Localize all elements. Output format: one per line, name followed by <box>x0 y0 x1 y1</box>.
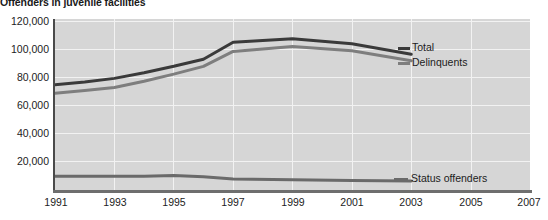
chart-figure: Offenders in juvenile facilities <box>0 0 548 220</box>
y-tick-label: 40,000 <box>0 127 49 139</box>
legend-swatch-status-offenders <box>394 178 408 181</box>
x-tick-label: 2003 <box>399 196 422 208</box>
legend-swatch-delinquents <box>398 62 410 65</box>
x-tick-label: 2007 <box>517 196 540 208</box>
x-tick-label: 2001 <box>340 196 363 208</box>
x-tick-label: 2005 <box>459 196 482 208</box>
legend-label-total: Total <box>412 41 434 53</box>
y-tick-label: 60,000 <box>0 99 49 111</box>
y-tick-label: 120,000 <box>0 15 49 27</box>
y-tick-label: 80,000 <box>0 71 49 83</box>
x-tick-label: 1993 <box>103 196 126 208</box>
x-tick-label: 1997 <box>221 196 244 208</box>
legend-label-status-offenders: Status offenders <box>411 172 487 184</box>
legend-label-delinquents: Delinquents <box>412 56 467 68</box>
y-tick-label: 20,000 <box>0 155 49 167</box>
legend-swatch-total <box>398 47 410 50</box>
x-tick-label: 1999 <box>281 196 304 208</box>
y-tick-label: 100,000 <box>0 43 49 55</box>
x-tick-label: 1995 <box>162 196 185 208</box>
y-axis-labels: 120,000 100,000 80,000 60,000 40,000 20,… <box>0 0 548 220</box>
x-tick-label: 1991 <box>44 196 67 208</box>
